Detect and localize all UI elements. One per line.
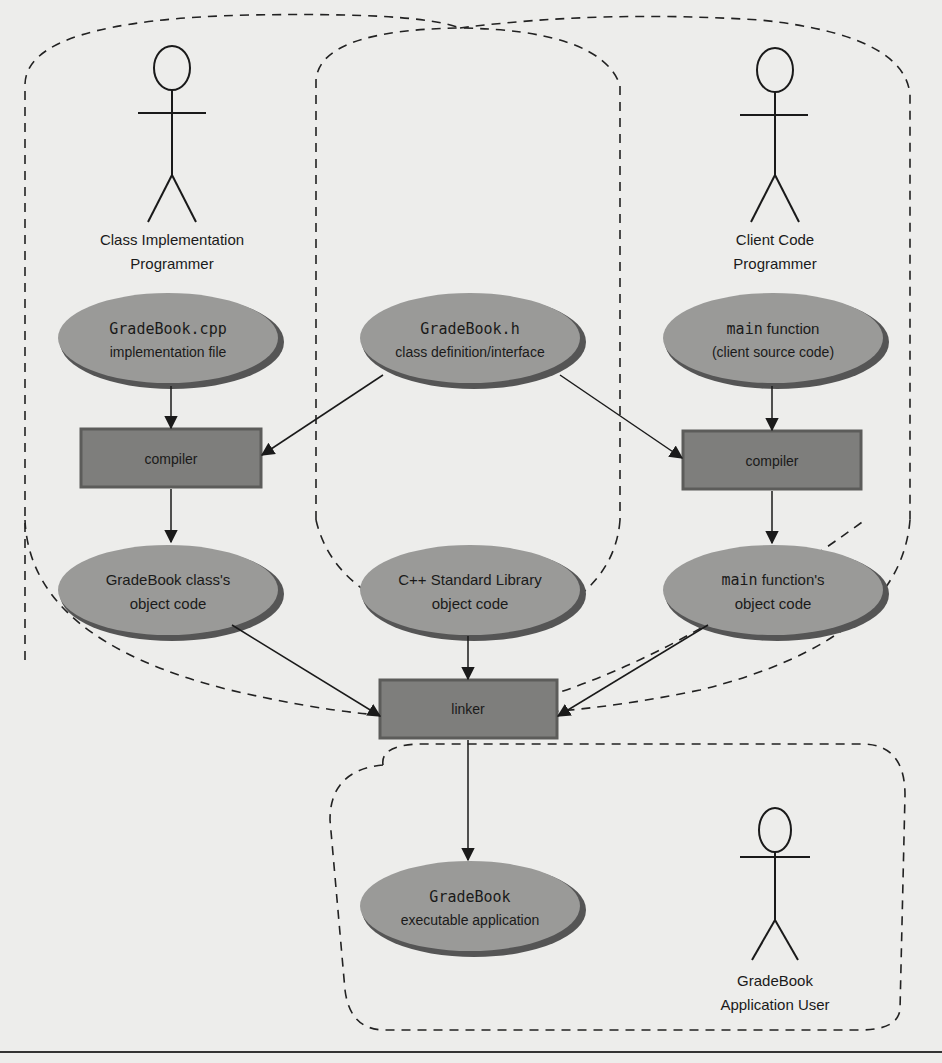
node-main-source: main function (client source code)	[663, 293, 889, 389]
svg-text:(client source code): (client source code)	[712, 344, 834, 360]
actor-head-icon	[757, 48, 793, 92]
node-main-object-code: main function's object code	[663, 545, 889, 641]
svg-text:implementation file: implementation file	[110, 344, 227, 360]
svg-text:linker: linker	[451, 701, 485, 717]
svg-text:GradeBook class's: GradeBook class's	[106, 571, 231, 588]
svg-text:main function's: main function's	[721, 571, 824, 589]
actor-label-line1: Class Implementation	[100, 231, 244, 248]
svg-text:GradeBook: GradeBook	[429, 888, 510, 906]
actor-label-line1: GradeBook	[737, 972, 813, 989]
svg-text:object code: object code	[432, 595, 509, 612]
node-gradebook-h: GradeBook.h class definition/interface	[360, 293, 586, 389]
actor-class-implementation-programmer	[138, 46, 206, 222]
node-executable: GradeBook executable application	[360, 861, 586, 957]
svg-text:compiler: compiler	[746, 453, 799, 469]
node-compiler-left: compiler	[81, 429, 261, 487]
svg-text:object code: object code	[130, 595, 207, 612]
actor-label-line1: Client Code	[736, 231, 814, 248]
arrow-gradebook-obj-to-linker	[232, 625, 380, 716]
svg-text:C++ Standard Library: C++ Standard Library	[398, 571, 542, 588]
arrow-header-to-left-compiler	[262, 375, 383, 455]
svg-text:GradeBook.cpp: GradeBook.cpp	[109, 320, 226, 338]
actor-client-code-programmer	[740, 48, 808, 222]
node-linker: linker	[380, 680, 557, 738]
actor-label-line2: Application User	[720, 996, 829, 1013]
svg-text:compiler: compiler	[145, 451, 198, 467]
node-compiler-right: compiler	[683, 431, 861, 489]
arrow-header-to-right-compiler	[560, 375, 682, 458]
actor-head-icon	[759, 808, 791, 852]
actor-application-user	[740, 808, 810, 960]
compilation-linking-diagram: Class Implementation Programmer Client C…	[0, 0, 942, 1063]
actor-head-icon	[154, 46, 190, 90]
svg-text:main function: main function	[727, 320, 820, 338]
svg-text:executable application: executable application	[401, 912, 540, 928]
node-stdlib-object-code: C++ Standard Library object code	[360, 545, 586, 641]
node-gradebook-cpp: GradeBook.cpp implementation file	[58, 293, 284, 389]
node-gradebook-object-code: GradeBook class's object code	[58, 545, 284, 641]
svg-text:GradeBook.h: GradeBook.h	[420, 320, 519, 338]
actor-label-line2: Programmer	[130, 255, 213, 272]
svg-text:object code: object code	[735, 595, 812, 612]
svg-text:class definition/interface: class definition/interface	[395, 344, 545, 360]
actor-label-line2: Programmer	[733, 255, 816, 272]
